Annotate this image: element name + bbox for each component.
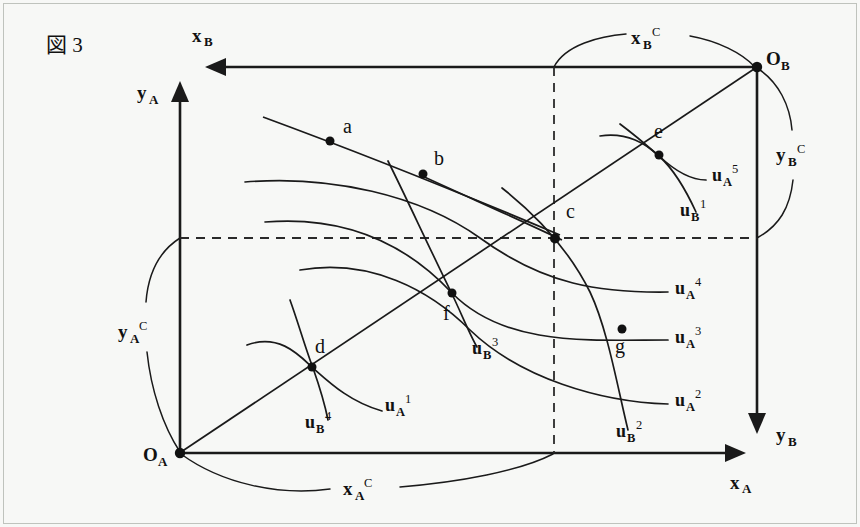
- brace-label-y-b-c: y B C: [776, 142, 805, 169]
- brace-label-x-b-c: x B C: [631, 25, 660, 52]
- curve-label-uB2: u B 2: [616, 418, 642, 445]
- brace-y-b-c: [757, 68, 793, 238]
- curve-label-uB1-base: u: [680, 200, 690, 220]
- y-a-axis: [171, 81, 189, 453]
- indifference-curve-uA5: [600, 135, 706, 180]
- brace-label-y-b-c-sub: B: [788, 154, 797, 169]
- curve-label-uA5-sub: A: [723, 175, 732, 189]
- curve-label-uB2-sup: 2: [636, 418, 642, 432]
- curve-label-uA5-sup: 5: [732, 162, 738, 176]
- axis-label-x-b-base: x: [192, 25, 202, 46]
- point-dot-f: [448, 289, 457, 298]
- point-label-a: a: [343, 115, 352, 137]
- brace-label-y-a-c-sub: A: [130, 331, 140, 346]
- x-b-axis: [205, 58, 757, 76]
- x-b-arrowhead: [205, 58, 226, 76]
- brace-label-y-a-c-base: y: [118, 321, 128, 342]
- y-b-axis: [748, 67, 766, 434]
- brace-label-x-a-c: x A C: [343, 476, 372, 503]
- curve-label-uB4-sup: 4: [325, 409, 332, 423]
- curve-label-uB1: u B 1: [680, 197, 706, 224]
- brace-label-x-b-c-sub: B: [643, 37, 652, 52]
- origin-label-b-base: O: [766, 48, 781, 69]
- curve-label-uA2-sup: 2: [695, 387, 701, 401]
- curve-label-uA1-base: u: [385, 395, 395, 415]
- brace-label-x-b-c-base: x: [631, 27, 641, 48]
- price-line-through-a-b: [263, 117, 560, 235]
- price-line-b-to-c: [420, 175, 562, 240]
- point-dot-c: [550, 234, 560, 244]
- curve-label-uB3-base: u: [472, 338, 482, 358]
- point-dot-d: [308, 363, 317, 372]
- brace-label-y-b-c-sup: C: [797, 142, 805, 156]
- axis-label-x-a: x A: [730, 472, 752, 496]
- point-label-c: c: [566, 200, 575, 222]
- curve-label-uB3-sup: 3: [492, 335, 498, 349]
- axis-label-y-b-base: y: [776, 424, 786, 445]
- contract-curve-diagonal: [181, 67, 757, 452]
- point-label-e: e: [654, 120, 663, 142]
- curve-label-uA5: u A 5: [712, 162, 738, 189]
- curve-label-uB4: u B 4: [305, 409, 332, 436]
- origin-a-dot: [175, 448, 185, 458]
- indifference-curve-uB4: [290, 300, 328, 420]
- y-a-arrowhead: [171, 81, 189, 102]
- brace-label-y-a-c: y A C: [118, 319, 147, 346]
- axis-label-y-b: y B: [776, 424, 797, 449]
- point-dot-e: [655, 151, 664, 160]
- curve-label-uA4-base: u: [675, 278, 685, 298]
- axis-label-y-b-sub: B: [788, 434, 797, 449]
- curve-label-uA2-base: u: [675, 390, 685, 410]
- origin-label-a-sub: A: [158, 454, 168, 469]
- curve-label-uA2: u A 2: [675, 387, 701, 414]
- axis-label-y-a-base: y: [137, 82, 147, 103]
- x-a-arrowhead: [725, 444, 746, 462]
- brace-label-x-a-c-sub: A: [355, 488, 365, 503]
- brace-label-y-b-c-base: y: [776, 144, 786, 165]
- point-dot-a: [326, 137, 335, 146]
- axis-label-y-a: y A: [137, 82, 159, 107]
- curve-label-uA3-sub: A: [686, 337, 695, 351]
- point-label-d: d: [315, 335, 325, 357]
- curve-label-uA2-sub: A: [686, 400, 695, 414]
- curve-label-uB2-base: u: [616, 421, 626, 441]
- axis-label-x-a-base: x: [730, 472, 740, 493]
- edgeworth-box-figure: 図 3 x B y A x A y B O A O B x B: [0, 0, 860, 527]
- point-label-b: b: [434, 147, 444, 169]
- figure-page: 図 3 x B y A x A y B O A O B x B: [0, 0, 860, 527]
- figure-title: 図 3: [46, 33, 83, 57]
- indifference-curve-uB3: [388, 161, 477, 347]
- brace-label-x-a-c-base: x: [343, 478, 353, 499]
- origin-label-b: O B: [766, 48, 790, 73]
- curve-label-uA1: u A 1: [385, 392, 411, 419]
- axis-label-x-b-sub: B: [204, 34, 213, 49]
- curve-label-uB3-sub: B: [483, 348, 491, 362]
- curve-label-uB3: u B 3: [472, 335, 498, 362]
- indifference-curve-uA3: [265, 221, 668, 340]
- indifference-curve-uA4: [245, 181, 668, 292]
- point-label-g: g: [615, 335, 625, 358]
- curve-label-uA5-base: u: [712, 165, 722, 185]
- curve-label-uA4-sup: 4: [695, 275, 702, 289]
- point-dot-b: [419, 170, 428, 179]
- axis-label-x-b: x B: [192, 25, 213, 49]
- curve-label-uB4-sub: B: [316, 422, 324, 436]
- curve-label-uA1-sub: A: [396, 405, 405, 419]
- brace-label-x-b-c-sup: C: [652, 25, 660, 39]
- origin-label-a-base: O: [143, 444, 158, 465]
- axis-label-x-a-sub: A: [742, 481, 752, 496]
- curve-label-uB1-sub: B: [691, 210, 699, 224]
- brace-label-x-a-c-sup: C: [364, 476, 372, 490]
- point-label-f: f: [443, 302, 450, 324]
- y-b-arrowhead: [748, 413, 766, 434]
- x-a-axis: [180, 444, 746, 462]
- curve-label-uB1-sup: 1: [700, 197, 706, 211]
- brace-y-a-c: [146, 238, 180, 452]
- origin-b-dot: [752, 62, 762, 72]
- curve-label-uB4-base: u: [305, 412, 315, 432]
- point-dot-g: [618, 325, 627, 334]
- origin-label-b-sub: B: [781, 58, 790, 73]
- curve-label-uA3: u A 3: [675, 324, 701, 351]
- curve-label-uA1-sup: 1: [405, 392, 411, 406]
- curve-label-uA3-base: u: [675, 327, 685, 347]
